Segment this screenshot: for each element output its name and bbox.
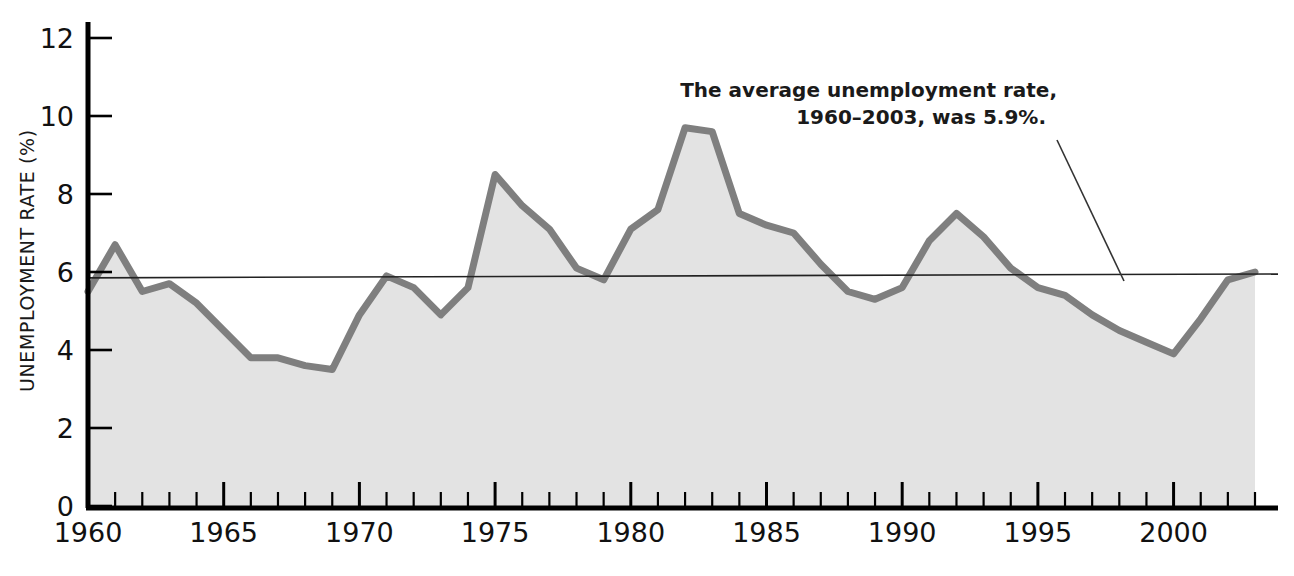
x-tick-label: 1970: [325, 517, 394, 548]
y-tick-label: 2: [57, 413, 74, 444]
y-tick-label: 6: [57, 257, 74, 288]
y-tick-label: 10: [40, 101, 74, 132]
x-tick-label: 1980: [596, 517, 665, 548]
y-tick-label: 8: [57, 179, 74, 210]
x-tick-label: 2000: [1139, 517, 1208, 548]
plot-area: [88, 128, 1278, 506]
y-tick-label: 4: [57, 335, 74, 366]
annotation-leader-line: [1057, 140, 1124, 281]
x-tick-label: 1975: [461, 517, 530, 548]
x-axis-tick-labels: 196019651970197519801985199019952000: [54, 517, 1208, 548]
area-fill: [88, 128, 1255, 506]
x-tick-label: 1990: [868, 517, 937, 548]
annotation-line-1: The average unemployment rate,: [680, 78, 1057, 102]
y-axis-tick-labels: 024681012: [40, 23, 74, 522]
chart-canvas: 024681012 196019651970197519801985199019…: [0, 0, 1294, 576]
x-tick-label: 1960: [54, 517, 123, 548]
annotation-line-2: 1960–2003, was 5.9%.: [796, 105, 1046, 129]
unemployment-rate-chart-figure: 024681012 196019651970197519801985199019…: [0, 0, 1294, 576]
y-axis-title: UNEMPLOYMENT RATE (%): [16, 129, 38, 392]
x-tick-label: 1995: [1004, 517, 1073, 548]
x-tick-label: 1985: [732, 517, 801, 548]
x-tick-label: 1965: [189, 517, 258, 548]
y-tick-label: 12: [40, 23, 74, 54]
